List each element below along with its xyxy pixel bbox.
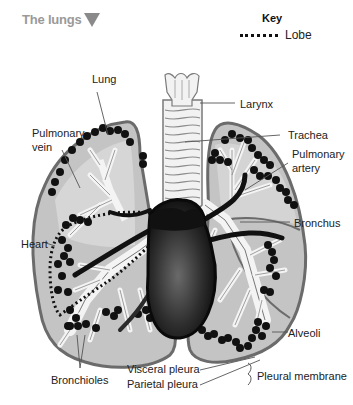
heart <box>147 200 215 338</box>
label-pulmonary-artery-line2: artery <box>292 161 320 175</box>
label-trachea: Trachea <box>288 128 328 142</box>
label-pleural-membrane: Pleural membrane <box>257 369 347 383</box>
label-pulmonary-artery-line1: Pulmonary <box>292 147 345 161</box>
label-pulmonary-vein-line1: Pulmonary <box>32 126 85 140</box>
label-pulmonary-vein-line2: vein <box>32 140 52 154</box>
trachea <box>163 100 202 214</box>
label-larynx: Larynx <box>240 97 273 111</box>
lungs-diagram <box>0 0 353 405</box>
label-bronchioles: Bronchioles <box>51 373 108 387</box>
label-parietal-pleura: Parietal pleura <box>127 377 198 391</box>
label-lung: Lung <box>92 72 116 86</box>
label-visceral-pleura: Visceral pleura <box>127 362 200 376</box>
label-heart: Heart <box>21 237 48 251</box>
label-bronchus: Bronchus <box>294 216 340 230</box>
label-alveoli: Alveoli <box>288 326 320 340</box>
